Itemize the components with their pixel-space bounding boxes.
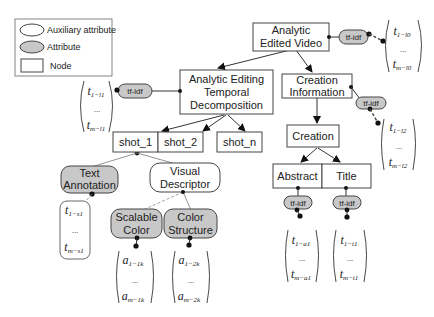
node-shot-n[interactable]: shot_n [217, 132, 262, 152]
edge-root-creationinfo [296, 50, 312, 72]
video-structure-diagram: Auxiliary attribute Attribute Node Analy… [0, 0, 434, 317]
node-swatch [21, 59, 43, 72]
svg-text:t1−l1: t1−l1 [87, 84, 104, 99]
node-label: Information [289, 86, 344, 98]
svg-text:a1−1k: a1−1k [123, 253, 145, 268]
attr-tfidf-temporal[interactable]: tf-idf [118, 84, 152, 98]
node-label: shot_2 [164, 136, 197, 148]
legend-label-node: Node [50, 61, 72, 71]
attr-label: tf-idf [290, 199, 306, 208]
vector-temporal: t1−l1 ... tm−l1 [81, 81, 113, 133]
attr-label: Annotation [63, 179, 116, 191]
svg-text:t1−a1: t1−a1 [292, 233, 311, 248]
node-analytic-editing-temporal-decomposition[interactable]: Analytic Editing Temporal Decomposition [180, 70, 273, 114]
edge-root-temporal [218, 50, 290, 68]
svg-text:am−2k: am−2k [178, 289, 201, 304]
vector-root: t1−l0 ... tm−l0 [386, 20, 422, 72]
attr-label: Scalable [115, 211, 157, 223]
attr-label: Text [79, 167, 99, 179]
node-abstract[interactable]: Abstract [273, 164, 322, 188]
node-title[interactable]: Title [322, 164, 371, 188]
node-shot-2[interactable]: shot_2 [158, 132, 203, 152]
vector-abstract: t1−a1 ... tm−a1 [286, 230, 319, 282]
connector-dot [297, 213, 302, 218]
node-label: Edited Video [260, 37, 322, 49]
auxiliary-attribute-swatch [20, 24, 44, 36]
connector-dot [380, 38, 385, 43]
edge-dashed [86, 194, 92, 201]
attr-label: tf-idf [363, 99, 379, 108]
node-creation-information[interactable]: Creation Information [282, 74, 352, 98]
attr-label: Color [177, 211, 204, 223]
node-label: shot_n [223, 136, 256, 148]
node-label: Creation [296, 74, 338, 86]
svg-text:...: ... [400, 45, 407, 54]
attr-color-structure[interactable]: Color Structure [164, 209, 217, 238]
legend-label-attribute: Attribute [47, 42, 81, 52]
node-analytic-edited-video[interactable]: Analytic Edited Video [253, 23, 329, 51]
attr-tfidf-title[interactable]: tf-idf [333, 196, 361, 209]
connector-dot [186, 242, 191, 247]
node-label: Abstract [277, 170, 317, 182]
svg-text:tm−l0: tm−l0 [393, 57, 412, 72]
attr-label: tf-idf [346, 33, 362, 42]
connector-dot [181, 190, 185, 194]
legend-label-auxiliary: Auxiliary attribute [47, 25, 116, 35]
aux-visual-descriptor[interactable]: Visual Descriptor [150, 163, 220, 192]
svg-text:tm−l1: tm−l1 [87, 118, 106, 133]
attr-tfidf-root[interactable]: tf-idf [339, 30, 368, 44]
connector-dot [344, 214, 349, 219]
attr-text-annotation[interactable]: Text Annotation [61, 166, 118, 193]
vector-color-structure: a1−2k ... am−2k [173, 251, 210, 304]
node-label: Analytic [272, 24, 311, 36]
svg-text:a1−2k: a1−2k [179, 253, 201, 268]
attr-label: Color [123, 224, 150, 236]
svg-text:...: ... [72, 226, 79, 235]
attr-label: tf-idf [127, 87, 143, 96]
attr-label: tf-idf [339, 199, 355, 208]
aux-label: Visual [170, 165, 200, 177]
node-label: shot_1 [119, 136, 152, 148]
svg-text:...: ... [299, 254, 306, 263]
attr-label: Structure [168, 224, 213, 236]
node-creation[interactable]: Creation [287, 125, 339, 147]
svg-text:tm−l2: tm−l2 [389, 155, 408, 170]
svg-text:...: ... [94, 105, 101, 114]
attribute-swatch [20, 41, 44, 53]
vector-scalable-color: a1−1k ... am−1k [117, 251, 154, 304]
aux-label: Descriptor [160, 178, 210, 190]
edge-creation-title [318, 148, 340, 162]
edge-visual-colorstructure [183, 192, 191, 210]
node-label: Decomposition [190, 99, 263, 111]
svg-text:...: ... [347, 254, 354, 263]
svg-text:...: ... [188, 276, 195, 285]
svg-text:tm−t1: tm−t1 [340, 267, 359, 282]
svg-text:am−1k: am−1k [122, 289, 145, 304]
edge-temporal-shotn [228, 115, 245, 131]
connector-dot [114, 87, 119, 92]
svg-text:t1−l0: t1−l0 [393, 24, 411, 39]
node-label: Creation [292, 130, 334, 142]
vector-text-annotation: t1−s1 ... tm−s1 [60, 201, 90, 259]
vector-creation-info: t1−l2 ... tm−l2 [382, 119, 416, 170]
attr-tfidf-abstract[interactable]: tf-idf [284, 196, 312, 209]
edge-visual-scalable [143, 192, 183, 210]
node-shot-1[interactable]: shot_1 [113, 132, 158, 152]
attr-scalable-color[interactable]: Scalable Color [111, 209, 162, 238]
edge-creation-abstract [301, 148, 317, 162]
svg-text:t1−t1: t1−t1 [340, 233, 357, 248]
svg-text:...: ... [396, 142, 403, 151]
legend: Auxiliary attribute Attribute Node [15, 19, 116, 76]
node-label: Title [336, 170, 356, 182]
svg-text:t1−l2: t1−l2 [389, 120, 407, 135]
connector-dot [133, 243, 138, 248]
node-label: Temporal [204, 86, 249, 98]
svg-text:tm−a1: tm−a1 [291, 267, 311, 282]
vector-title: t1−t1 ... tm−t1 [334, 230, 367, 282]
node-label: Analytic Editing [189, 73, 264, 85]
svg-text:...: ... [132, 276, 139, 285]
connector-dot [375, 120, 380, 125]
